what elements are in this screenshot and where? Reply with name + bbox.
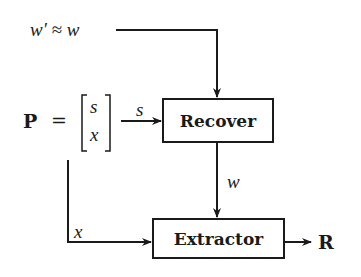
- extractor-block: Extractor: [152, 218, 285, 259]
- edge-label-w: w: [227, 172, 240, 191]
- p-label: P: [23, 112, 37, 131]
- output-r-label: R: [318, 233, 334, 252]
- vector-bracket-right: [105, 95, 110, 151]
- recover-block: Recover: [162, 98, 274, 143]
- edge-wprime-to-recover: [116, 30, 217, 97]
- edge-label-x: x: [74, 222, 82, 241]
- diagram-canvas: w′ ≈ w P = s x s w x Recover Extractor R: [0, 0, 361, 277]
- edge-label-s: s: [136, 100, 143, 119]
- vector-entry-s: s: [90, 97, 97, 116]
- vector-entry-x: x: [90, 125, 98, 144]
- equals-sign: =: [51, 111, 67, 130]
- w-prime-approx-label: w′ ≈ w: [30, 20, 79, 39]
- recover-block-label: Recover: [180, 111, 256, 131]
- extractor-block-label: Extractor: [174, 229, 263, 249]
- vector-bracket-left: [82, 95, 87, 151]
